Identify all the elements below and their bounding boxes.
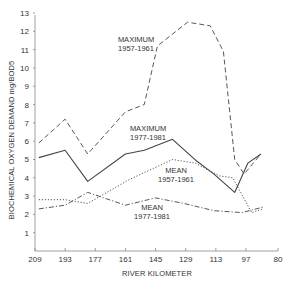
y-tick-label: 13 (20, 9, 29, 18)
x-axis-label: RIVER KILOMETER (122, 269, 192, 278)
y-tick-label: 10 (20, 64, 29, 73)
x-tick-label: 80 (274, 255, 283, 264)
y-tick-label: 4 (25, 174, 30, 183)
y-axis-label: BIOCHEMICAL OXYGEN DEMAND mg/BOD5 (7, 61, 16, 219)
x-tick-label: 113 (209, 255, 222, 264)
y-tick-label: 3 (25, 192, 30, 201)
x-tick-label: 161 (119, 255, 133, 264)
series-line-maximum-1977-1981 (39, 139, 261, 192)
series-annotation: MAXIMUM (118, 35, 154, 44)
y-tick-label: 6 (25, 137, 30, 146)
y-tick-label: 5 (25, 155, 30, 164)
x-tick-label: 97 (242, 255, 251, 264)
series-annotation: 1977-1981 (130, 133, 166, 142)
x-tick-label: 129 (179, 255, 193, 264)
y-tick-label: 2 (25, 210, 30, 219)
x-tick-label: 193 (58, 255, 72, 264)
y-tick-label: 12 (20, 27, 29, 36)
y-tick-label: 1 (25, 229, 30, 238)
series-annotation: MEAN (141, 203, 163, 212)
series-annotation: MAXIMUM (130, 124, 166, 133)
y-tick-label: 7 (25, 119, 30, 128)
y-tick-label: 11 (21, 46, 30, 55)
series-annotation: 1977-1981 (134, 212, 170, 221)
series-annotation: 1957-1961 (158, 175, 194, 184)
x-tick-label: 177 (89, 255, 103, 264)
series-annotation: MEAN (165, 166, 187, 175)
chart: 1234567891011121320919317716114512911397… (0, 0, 288, 285)
x-tick-label: 209 (28, 255, 42, 264)
x-tick-label: 145 (149, 255, 163, 264)
annotations: MAXIMUM1957-1961MAXIMUM1977-1981MEAN1957… (118, 35, 194, 221)
y-tick-label: 8 (25, 101, 30, 110)
y-tick-label: 9 (25, 82, 30, 91)
series-annotation: 1957-1961 (118, 44, 154, 53)
